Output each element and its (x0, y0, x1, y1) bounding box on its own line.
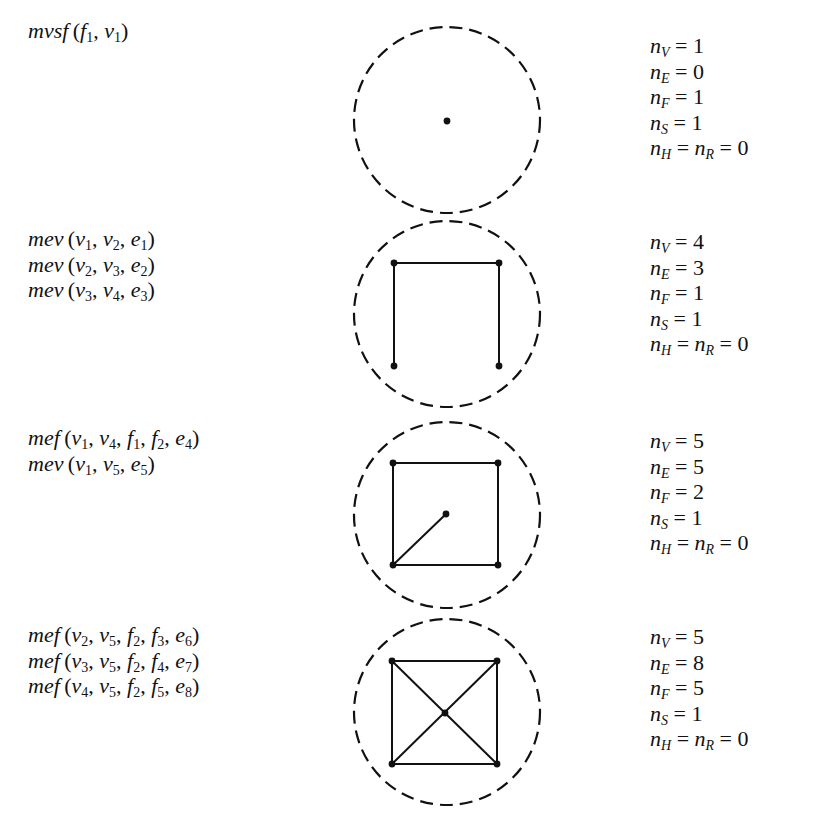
symbol-base: n (650, 624, 661, 649)
equals-sign: = (671, 530, 694, 555)
edge-line (393, 514, 446, 565)
equals-sign: = (671, 726, 694, 751)
symbol-base: n (695, 135, 706, 160)
count-value: 1 (693, 84, 704, 109)
count-shells: nS = 1 (650, 505, 749, 531)
count-symbol: nF (650, 479, 670, 504)
equals-sign: = (670, 624, 693, 649)
count-faces: nF = 1 (650, 280, 749, 306)
vertex-dot (390, 562, 397, 569)
symbol-subscript: H (661, 542, 671, 557)
equals-sign: = (670, 479, 693, 504)
count-symbol: nR (695, 331, 715, 356)
count-symbol: nV (650, 428, 670, 453)
count-symbol: nV (650, 624, 670, 649)
symbol-base: n (650, 331, 661, 356)
counts-step-2: nV = 4nE = 3nF = 1nS = 1nH = nR = 0 (650, 229, 749, 357)
equals-sign: = (670, 280, 693, 305)
symbol-subscript: H (661, 147, 671, 162)
count-value: 1 (691, 306, 702, 331)
count-value: 3 (693, 255, 704, 280)
count-value: 1 (691, 505, 702, 530)
symbol-base: n (650, 675, 661, 700)
equals-sign: = (668, 306, 691, 331)
count-value: 5 (693, 624, 704, 649)
count-value: 0 (693, 59, 704, 84)
count-holes-rings: nH = nR = 0 (650, 530, 749, 556)
count-shells: nS = 1 (650, 701, 749, 727)
figure-step-3 (354, 422, 540, 608)
symbol-base: n (650, 229, 661, 254)
count-edges: nE = 0 (650, 59, 749, 85)
vertex-dot (495, 460, 502, 467)
equals-sign: = (670, 255, 693, 280)
equals-sign: = (670, 650, 693, 675)
vertex-dot (494, 658, 501, 665)
count-value: 5 (693, 454, 704, 479)
count-value: 5 (693, 428, 704, 453)
count-value: 4 (693, 229, 704, 254)
equals-sign: = (668, 505, 691, 530)
vertex-dot (443, 511, 450, 518)
symbol-base: n (650, 505, 661, 530)
equals-sign: = (668, 701, 691, 726)
symbol-subscript: H (661, 343, 671, 358)
count-value: 1 (693, 280, 704, 305)
count-vertices: nV = 4 (650, 229, 749, 255)
equals-sign: = (668, 110, 691, 135)
count-edges: nE = 3 (650, 255, 749, 281)
count-value: 1 (691, 701, 702, 726)
dashed-boundary-circle (354, 221, 540, 407)
counts-step-3: nV = 5nE = 5nF = 2nS = 1nH = nR = 0 (650, 428, 749, 556)
count-value: 0 (738, 331, 749, 356)
figure-step-2 (354, 221, 540, 407)
count-value: 0 (738, 530, 749, 555)
equals-sign: = (670, 84, 693, 109)
symbol-base: n (650, 33, 661, 58)
symbol-base: n (650, 428, 661, 453)
count-value: 5 (693, 675, 704, 700)
figure-step-4 (354, 619, 540, 805)
equals-sign: = (670, 428, 693, 453)
symbol-base: n (650, 135, 661, 160)
count-symbol: nF (650, 675, 670, 700)
symbol-base: n (650, 110, 661, 135)
count-faces: nF = 5 (650, 675, 749, 701)
count-vertices: nV = 1 (650, 33, 749, 59)
count-symbol: nS (650, 306, 668, 331)
symbol-subscript: R (706, 147, 715, 162)
vertex-dot (390, 460, 397, 467)
count-value: 1 (693, 33, 704, 58)
count-faces: nF = 2 (650, 479, 749, 505)
counts-step-1: nV = 1nE = 0nF = 1nS = 1nH = nR = 0 (650, 33, 749, 161)
count-vertices: nV = 5 (650, 428, 749, 454)
symbol-base: n (650, 479, 661, 504)
count-value: 1 (691, 110, 702, 135)
count-symbol: nV (650, 229, 670, 254)
count-edges: nE = 5 (650, 454, 749, 480)
symbol-subscript: R (706, 542, 715, 557)
vertex-dot (391, 260, 398, 267)
equals-sign: = (670, 454, 693, 479)
count-holes-rings: nH = nR = 0 (650, 331, 749, 357)
symbol-subscript: V (661, 45, 670, 60)
count-symbol: nH (650, 331, 671, 356)
equals-sign: = (670, 59, 693, 84)
symbol-base: n (650, 306, 661, 331)
symbol-base: n (650, 530, 661, 555)
vertex-dot (389, 761, 396, 768)
count-holes-rings: nH = nR = 0 (650, 135, 749, 161)
symbol-base: n (695, 530, 706, 555)
count-symbol: nR (695, 726, 715, 751)
symbol-subscript: V (661, 241, 670, 256)
equals-sign: = (670, 229, 693, 254)
equals-sign: = (670, 675, 693, 700)
symbol-subscript: R (706, 738, 715, 753)
count-symbol: nE (650, 650, 670, 675)
count-symbol: nE (650, 454, 670, 479)
count-symbol: nF (650, 280, 670, 305)
symbol-base: n (650, 59, 661, 84)
symbol-base: n (650, 726, 661, 751)
count-symbol: nF (650, 84, 670, 109)
count-symbol: nE (650, 255, 670, 280)
